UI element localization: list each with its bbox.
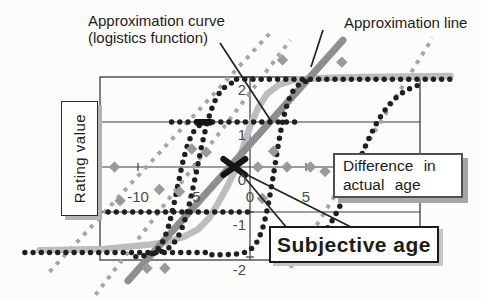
difference-box-line2: actual age xyxy=(343,176,461,195)
x-tick-label: -5 xyxy=(187,188,200,205)
difference-in-actual-age-box: Difference in actual age xyxy=(333,153,463,198)
y-axis-title-box: Rating value xyxy=(61,101,98,216)
x-tick-label: -10 xyxy=(127,188,149,205)
approximation-curve-label: Approximation curve (logistics function) xyxy=(88,12,225,47)
approximation-curve-label-line2: (logistics function) xyxy=(88,29,225,46)
y-tick-label: -2 xyxy=(233,261,246,278)
y-tick-label: -1 xyxy=(233,216,246,233)
figure: -10-50510210-1-2 Approximation curve (lo… xyxy=(0,0,481,302)
diamond-point xyxy=(159,263,170,274)
x-tick-label: 5 xyxy=(302,188,310,205)
bar-marker xyxy=(195,119,212,126)
diamond-point xyxy=(281,161,292,172)
diamond-point xyxy=(252,161,263,172)
lower-asymptote-row xyxy=(22,250,208,255)
diamond-point xyxy=(114,195,125,206)
diamond-point xyxy=(154,184,165,195)
y-tick-label: 1 xyxy=(238,126,246,143)
approximation-curve-label-line1: Approximation curve xyxy=(88,12,225,29)
subjective-age-label: Subjective age xyxy=(277,233,431,257)
x-tick-label: 0 xyxy=(246,188,254,205)
y-axis-title: Rating value xyxy=(71,114,88,203)
difference-box-line1: Difference in xyxy=(343,157,461,176)
diamond-point xyxy=(336,56,347,67)
y-tick-label: 2 xyxy=(238,81,246,98)
y-tick-label: 0 xyxy=(238,171,246,188)
diamond-point xyxy=(109,161,120,172)
approximation-line-label: Approximation line xyxy=(344,14,467,31)
subjective-age-box: Subjective age xyxy=(269,226,439,263)
